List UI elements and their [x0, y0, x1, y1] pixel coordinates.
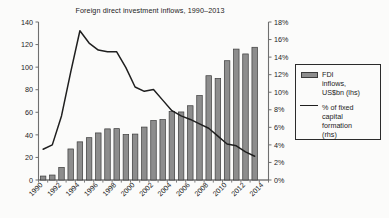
bar: [96, 133, 102, 180]
legend-item-fdi-inflows-label: FDI inflows, US$bn (lhs): [322, 70, 362, 98]
x-axis-tick-label: 2014: [248, 181, 266, 199]
right-axis-tick-label: 6%: [274, 123, 285, 132]
x-axis-tick-label: 2010: [211, 181, 229, 199]
x-axis-tick-label: 1994: [64, 181, 82, 199]
bar: [151, 121, 157, 180]
x-axis-tick-label: 2012: [229, 181, 247, 199]
right-axis-tick-label: 0%: [274, 176, 285, 185]
bar: [123, 135, 129, 180]
bar: [234, 49, 240, 180]
x-axis-tick-label: 2000: [119, 181, 137, 199]
bar: [68, 149, 74, 180]
left-axis-tick-label: 60: [25, 108, 33, 117]
right-axis-tick-label: 16%: [274, 35, 289, 44]
x-axis-tick-label: 2002: [137, 181, 155, 199]
legend-line-swatch-icon: [296, 103, 322, 106]
x-axis-tick-label: 1992: [45, 181, 63, 199]
right-axis-tick-label: 4%: [274, 141, 285, 150]
left-axis-tick-label: 20: [25, 153, 33, 162]
bar: [59, 167, 65, 180]
bar: [40, 176, 46, 180]
x-axis-tick-label: 2006: [174, 181, 192, 199]
bar: [178, 112, 184, 180]
legend-item-pct-fixed-capital: % of fixed capital formation (rhs): [296, 103, 380, 140]
x-axis-tick-label: 1996: [82, 181, 100, 199]
right-axis-tick-label: 14%: [274, 53, 289, 62]
left-axis-tick-label: 140: [21, 18, 33, 27]
bar: [252, 47, 258, 180]
chart-title: Foreign direct investment inflows, 1990–…: [0, 6, 300, 15]
bar: [215, 78, 221, 180]
bar: [243, 54, 249, 180]
bar: [197, 96, 203, 180]
bar: [224, 61, 230, 180]
bar: [132, 134, 138, 180]
left-axis-tick-label: 100: [21, 63, 33, 72]
bar: [105, 129, 111, 180]
x-axis-tick-label: 2008: [192, 181, 210, 199]
left-axis-tick-label: 0: [29, 176, 33, 185]
left-axis-tick-label: 120: [21, 40, 33, 49]
x-axis-tick-label: 2004: [156, 181, 174, 199]
bar: [169, 112, 175, 180]
line-series: [43, 31, 255, 157]
legend-bar-swatch-icon: [296, 70, 322, 78]
bar: [77, 142, 83, 180]
chart-legend: FDI inflows, US$bn (lhs) % of fixed capi…: [295, 64, 381, 140]
left-axis-tick-label: 80: [25, 85, 33, 94]
chart-container: Foreign direct investment inflows, 1990–…: [0, 0, 389, 218]
bar: [86, 138, 92, 180]
right-axis-tick-label: 18%: [274, 18, 289, 27]
bar: [114, 129, 120, 180]
right-axis-tick-label: 2%: [274, 158, 285, 167]
x-axis-tick-label: 1998: [100, 181, 118, 199]
right-axis-tick-label: 10%: [274, 88, 289, 97]
bar: [188, 106, 194, 180]
legend-item-fdi-inflows: FDI inflows, US$bn (lhs): [296, 70, 380, 98]
bar: [50, 175, 56, 180]
bar: [160, 120, 166, 180]
left-axis-tick-label: 40: [25, 131, 33, 140]
legend-item-pct-fixed-capital-label: % of fixed capital formation (rhs): [322, 103, 356, 140]
right-axis-tick-label: 8%: [274, 105, 285, 114]
bar: [142, 127, 148, 180]
right-axis-tick-label: 12%: [274, 70, 289, 79]
